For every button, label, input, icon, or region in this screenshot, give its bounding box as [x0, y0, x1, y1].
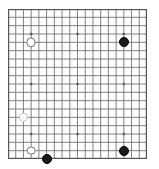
black-stone-bottom-left[interactable]	[42, 154, 52, 164]
board-grid-lines	[8, 9, 147, 159]
goban-grid-area[interactable]	[8, 9, 147, 159]
star-point	[76, 33, 79, 36]
star-point	[123, 83, 126, 86]
star-point	[123, 33, 126, 36]
star-point	[30, 83, 32, 86]
star-point	[76, 83, 79, 86]
star-point	[76, 133, 79, 136]
star-point	[123, 133, 126, 136]
star-point	[30, 133, 32, 136]
go-board-widget[interactable]	[0, 0, 159, 169]
black-stone-upper-right[interactable]	[119, 37, 129, 47]
white-stone-lower-left[interactable]	[27, 146, 36, 155]
star-point	[30, 33, 32, 36]
black-stone-lower-right[interactable]	[119, 146, 129, 156]
